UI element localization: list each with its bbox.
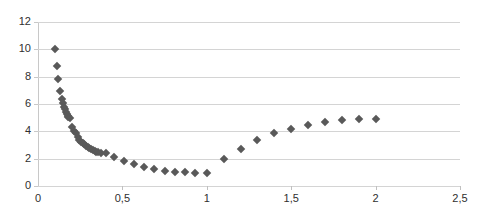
y-tick-label: 10 (5, 43, 31, 54)
gridline-y (38, 77, 460, 78)
data-point-marker (51, 45, 59, 53)
y-tick-mark (34, 104, 38, 105)
gridline-y (38, 22, 460, 23)
x-tick-label: 1,5 (276, 192, 306, 204)
data-point-marker (338, 116, 346, 124)
data-point-marker (219, 155, 227, 163)
y-tick-mark (34, 186, 38, 187)
x-tick-label: 0,5 (107, 192, 137, 204)
y-tick-mark (34, 77, 38, 78)
x-tick-label: 1 (192, 192, 222, 204)
gridline-y (38, 186, 460, 187)
data-point-marker (140, 162, 148, 170)
y-tick-label: 8 (5, 71, 31, 82)
x-tick-label: 0 (23, 192, 53, 204)
x-tick-mark (376, 186, 377, 190)
data-point-marker (150, 164, 158, 172)
gridline-y (38, 49, 460, 50)
y-tick-label: 6 (5, 98, 31, 109)
y-tick-label: 2 (5, 153, 31, 164)
data-point-marker (110, 153, 118, 161)
x-tick-mark (291, 186, 292, 190)
data-point-marker (304, 121, 312, 129)
data-point-marker (321, 118, 329, 126)
y-tick-mark (34, 159, 38, 160)
data-point-marker (191, 169, 199, 177)
x-tick-mark (460, 186, 461, 190)
data-point-marker (170, 167, 178, 175)
data-point-marker (253, 136, 261, 144)
gridline-y (38, 131, 460, 132)
data-point-marker (130, 160, 138, 168)
gridline-y (38, 104, 460, 105)
x-tick-label: 2 (361, 192, 391, 204)
y-tick-mark (34, 131, 38, 132)
data-point-marker (203, 169, 211, 177)
data-point-marker (56, 87, 64, 95)
data-point-marker (371, 115, 379, 123)
data-point-marker (181, 168, 189, 176)
data-point-marker (236, 145, 244, 153)
data-point-marker (52, 61, 60, 69)
y-tick-label: 0 (5, 180, 31, 191)
x-tick-mark (122, 186, 123, 190)
x-tick-label: 2,5 (445, 192, 475, 204)
y-tick-mark (34, 49, 38, 50)
y-tick-mark (34, 22, 38, 23)
plot-area (38, 22, 460, 186)
y-tick-label: 4 (5, 125, 31, 136)
x-tick-mark (207, 186, 208, 190)
data-point-marker (160, 166, 168, 174)
y-tick-label: 12 (5, 16, 31, 27)
scatter-chart: 024681012 00,511,522,5 (0, 0, 482, 220)
gridline-y (38, 159, 460, 160)
data-point-marker (354, 115, 362, 123)
y-axis-labels: 024681012 (0, 0, 31, 220)
